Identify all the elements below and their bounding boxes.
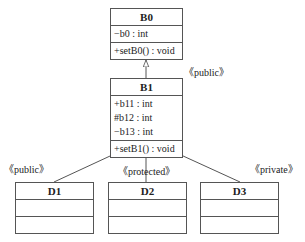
stereotype-label: 《public》 [4, 161, 49, 176]
operations-section [16, 217, 93, 233]
class-name: B0 [111, 9, 182, 26]
attributes-section [16, 200, 93, 217]
class-name: D3 [201, 183, 278, 200]
stereotype-label: 《private》 [250, 161, 298, 176]
attributes-section [201, 200, 278, 217]
attribute: −b0 : int [114, 27, 182, 41]
operation: +setB1() : void [114, 142, 182, 156]
class-d3: D3 [200, 182, 279, 234]
class-b0: B0 −b0 : int +setB0() : void [110, 8, 183, 60]
operations-section [201, 217, 278, 233]
attributes-section [109, 200, 186, 217]
attribute: −b13 : int [114, 125, 182, 139]
operations-section [109, 217, 186, 233]
attribute: #b12 : int [114, 111, 182, 125]
stereotype-label: 《protected》 [118, 163, 175, 178]
operation: +setB0() : void [114, 44, 182, 58]
class-name: D1 [16, 183, 93, 200]
class-b1: B1 +b11 : int #b12 : int −b13 : int +set… [110, 78, 183, 158]
stereotype-label: 《public》 [184, 64, 229, 79]
attributes-section: −b0 : int [111, 26, 182, 43]
attribute: +b11 : int [114, 97, 182, 111]
operations-section: +setB0() : void [111, 43, 182, 59]
class-d2: D2 [108, 182, 187, 234]
attributes-section: +b11 : int #b12 : int −b13 : int [111, 96, 182, 141]
operations-section: +setB1() : void [111, 141, 182, 157]
class-d1: D1 [15, 182, 94, 234]
class-name: B1 [111, 79, 182, 96]
class-name: D2 [109, 183, 186, 200]
